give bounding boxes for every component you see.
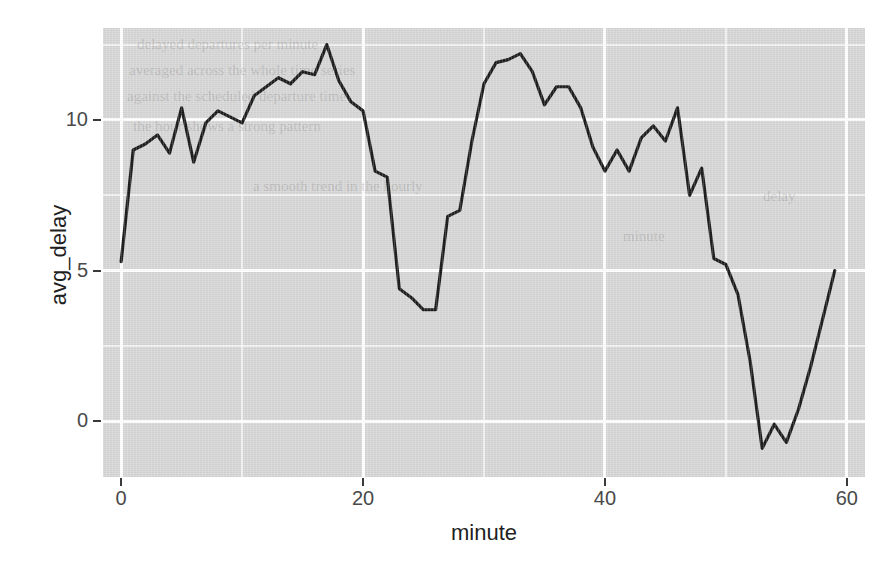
y-tick-mark: [93, 270, 101, 272]
x-tick-label: 0: [91, 487, 151, 510]
chart-container: avg_delay 0510 delayed departures per mi…: [0, 0, 894, 566]
x-tick-label: 40: [575, 487, 635, 510]
avg-delay-line: [121, 45, 835, 449]
x-tick-mark: [362, 478, 364, 486]
y-tick-label-text: 0: [58, 409, 88, 432]
x-axis-title: minute: [103, 520, 865, 546]
y-tick-label: 5: [58, 259, 88, 283]
y-tick-mark: [93, 420, 101, 422]
x-tick-mark: [120, 478, 122, 486]
y-tick-mark: [93, 119, 101, 121]
plot-panel: delayed departures per minuteaveraged ac…: [103, 28, 865, 477]
y-tick-label-text: 5: [58, 259, 88, 282]
x-tick-label: 60: [817, 487, 877, 510]
x-tick-mark: [846, 478, 848, 486]
y-tick-label: 10: [58, 108, 88, 132]
y-tick-label-text: 10: [58, 108, 88, 131]
x-tick-mark: [604, 478, 606, 486]
y-tick-label: 0: [58, 409, 88, 433]
series-line-chart: [103, 28, 865, 477]
x-tick-label: 20: [333, 487, 393, 510]
